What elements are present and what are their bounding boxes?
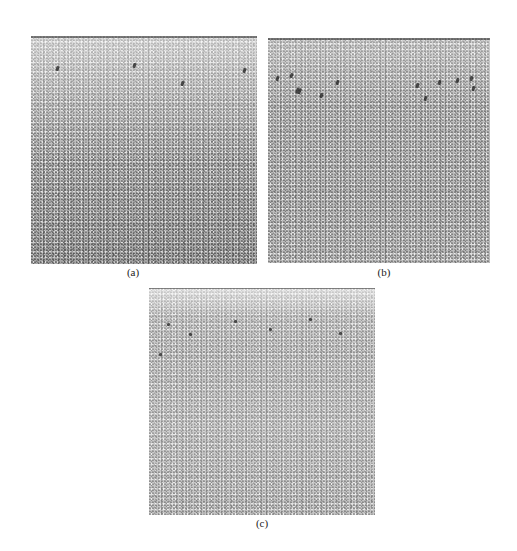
panel-label-c: (c) [242, 517, 282, 529]
panel-label-b: (b) [364, 266, 404, 278]
micrograph-panel-b [268, 38, 490, 263]
micrograph-panel-c [149, 288, 375, 515]
panel-label-a: (a) [113, 266, 153, 278]
micrograph-panel-a [31, 36, 257, 264]
